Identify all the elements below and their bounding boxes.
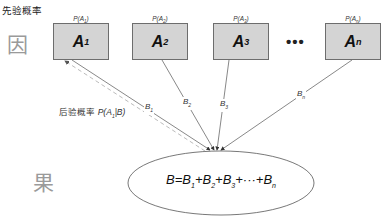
edge-label-b2: B2 (182, 97, 192, 110)
ellipsis-dots: ••• (286, 33, 305, 50)
cause-label: 因 (7, 28, 28, 58)
posterior-probability-label: 后验概率 P(A1|B) (59, 105, 125, 119)
edge-label-b3: B3 (219, 99, 229, 112)
cause-box-a1: A1 (53, 23, 109, 60)
edge-bn (221, 60, 352, 150)
edge-label-b1: B1 (144, 102, 154, 115)
cause-box-a3: A3 (213, 23, 269, 60)
cause-box-a2: A2 (132, 23, 188, 60)
effect-label: 果 (33, 166, 54, 196)
prior-probability-title: 先验概率 (2, 3, 42, 17)
edge-label-bn: Bn (296, 89, 306, 102)
effect-formula: B=B1+B2+B3+···+Bn (128, 172, 314, 189)
cause-box-an: An (325, 23, 381, 60)
